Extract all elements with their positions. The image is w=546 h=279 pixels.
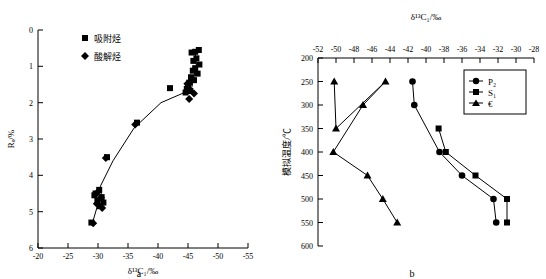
panel-a-ytick-2: 2 <box>29 99 33 108</box>
panel-a-axes: -20 -25 -30 -35 -40 -45 -50 -55 <box>29 26 253 261</box>
panel-a-xtick-2: -30 <box>93 252 104 261</box>
panel-a-xtick-3: -35 <box>123 252 134 261</box>
panel-a-xtick-6: -50 <box>213 252 224 261</box>
panel-b-xtick-5: -42 <box>403 45 414 54</box>
panel-b-ytick-0: 200 <box>301 54 313 63</box>
panel-b-svg: -52 -50 -48 -46 -44 -42 -40 -38 -36 -34 … <box>278 0 546 279</box>
panel-a-trend-curve <box>92 52 196 225</box>
panel-b-x-ticks: -52 -50 -48 -46 -44 -42 -40 -38 -36 -34 … <box>313 45 540 63</box>
panel-b-legend-label-0: P₂ <box>488 77 496 87</box>
panel-b-xtick-11: -30 <box>511 45 522 54</box>
panel-a-xtick-0: -20 <box>33 252 44 261</box>
panel-b-ytick-5: 450 <box>301 172 313 181</box>
panel-a-xtick-4: -40 <box>153 252 164 261</box>
panel-b-y-ticks: 200 250 300 350 400 450 500 550 600 <box>301 54 323 251</box>
panel-b-xtick-1: -50 <box>331 45 342 54</box>
panel-b-legend-label-1: S₁ <box>488 88 496 98</box>
panel-b-xtick-8: -36 <box>457 45 468 54</box>
panel-a-ytick-5: 5 <box>29 208 33 217</box>
panel-b-letter: b <box>410 268 415 279</box>
legend-marker-square-icon <box>82 35 88 41</box>
panel-b-ytick-3: 350 <box>301 125 313 134</box>
panel-b-xtick-7: -38 <box>439 45 450 54</box>
panel-b-ytick-1: 250 <box>301 78 313 87</box>
panel-a-ytick-6: 6 <box>29 244 33 253</box>
panel-a-xtick-1: -25 <box>63 252 74 261</box>
panel-b-ytick-2: 300 <box>301 101 313 110</box>
panel-a-xtick-7: -55 <box>243 252 254 261</box>
panel-b-xtick-10: -32 <box>493 45 504 54</box>
panel-a-svg: -20 -25 -30 -35 -40 -45 -50 -55 <box>0 0 278 279</box>
panel-b-xtick-6: -40 <box>421 45 432 54</box>
panel-a-x-ticks: -20 -25 -30 -35 -40 -45 -50 -55 <box>33 243 254 261</box>
panel-b-x-axis-title: δ¹³C₁/‰ <box>411 12 441 22</box>
panel-a-xtick-5: -45 <box>183 252 194 261</box>
panel-b-xtick-4: -44 <box>385 45 396 54</box>
panel-a-legend-label-0: 吸附烃 <box>94 33 121 44</box>
panel-a-y-ticks: 0 1 2 3 4 5 6 <box>29 26 43 253</box>
panel-b-xtick-0: -52 <box>313 45 324 54</box>
panel-a-legend-label-1: 酸解烃 <box>94 51 121 62</box>
chart-panel-a: -20 -25 -30 -35 -40 -45 -50 -55 <box>0 0 278 279</box>
panel-b-legend-label-2: € <box>488 99 493 109</box>
panel-b-xtick-9: -34 <box>475 45 486 54</box>
panel-a-letter: a <box>137 268 141 279</box>
figure-root: -20 -25 -30 -35 -40 -45 -50 -55 <box>0 0 546 279</box>
panel-a-legend: 吸附烃 酸解烃 <box>81 33 121 62</box>
panel-a-ytick-1: 1 <box>29 62 33 71</box>
panel-a-y-axis-title: Rₒ/% <box>6 129 16 148</box>
panel-b-ytick-6: 500 <box>301 195 313 204</box>
panel-a-ytick-4: 4 <box>29 171 33 180</box>
panel-b-legend: P₂ S₁ € <box>464 70 526 114</box>
panel-b-y-axis-title: 模拟温度/℃ <box>281 128 292 176</box>
panel-b-ytick-7: 550 <box>301 219 313 228</box>
panel-b-xtick-3: -46 <box>367 45 378 54</box>
panel-a-ytick-0: 0 <box>29 26 33 35</box>
legend-marker-diamond-icon <box>81 52 89 60</box>
panel-b-ytick-4: 400 <box>301 148 313 157</box>
panel-b-ytick-8: 600 <box>301 242 313 251</box>
panel-a-series-0-points <box>88 47 202 226</box>
panel-b-series-2 <box>329 78 401 226</box>
panel-b-series-1 <box>436 126 510 226</box>
panel-b-xtick-2: -48 <box>349 45 360 54</box>
chart-panel-b: -52 -50 -48 -46 -44 -42 -40 -38 -36 -34 … <box>278 0 546 279</box>
panel-b-xtick-12: -28 <box>529 45 540 54</box>
panel-a-ytick-3: 3 <box>29 135 33 144</box>
